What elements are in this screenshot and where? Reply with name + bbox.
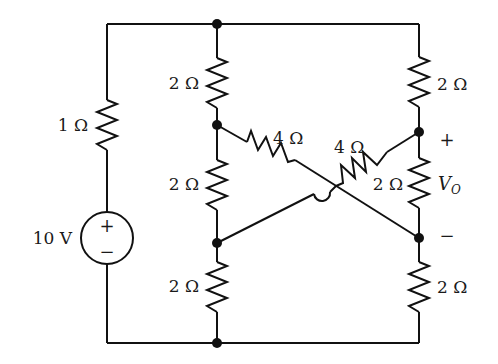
label-r-mid-bottom: 2 Ω — [169, 276, 199, 296]
cross-wire-to-4ohm-right — [330, 186, 336, 192]
node-mid-upper — [212, 120, 222, 130]
resistor-right-bottom — [409, 262, 429, 312]
source-minus-sign: − — [99, 241, 114, 262]
label-vo-plus: + — [439, 129, 454, 150]
node-top-mid — [212, 19, 222, 29]
label-r-right-top: 2 Ω — [437, 74, 467, 94]
label-r-mid-top: 2 Ω — [169, 73, 199, 93]
label-r-mid-middle: 2 Ω — [169, 174, 199, 194]
label-r-cross-right: 4 Ω — [334, 137, 364, 157]
node-right-upper — [414, 127, 424, 137]
cross-wire-lower-left — [217, 194, 314, 243]
resistor-right-middle — [409, 158, 429, 208]
label-r-right-middle: 2 Ω — [373, 174, 403, 194]
voltage-source: + − — [81, 212, 133, 264]
label-r-cross-left: 4 Ω — [273, 128, 303, 148]
label-r-left: 1 Ω — [58, 115, 88, 135]
node-right-lower — [414, 233, 424, 243]
cross-wire-lower-right — [295, 160, 419, 238]
node-bottom-mid — [212, 338, 222, 348]
label-vo: VO — [438, 173, 461, 197]
node-mid-lower — [212, 238, 222, 248]
circuit-diagram: + − 1 Ω 10 V 2 Ω 2 Ω 2 Ω 2 Ω 2 Ω 2 Ω 4 Ω… — [0, 0, 498, 364]
cross-wire-hop — [314, 192, 330, 201]
cross-wire-upper-right — [387, 132, 419, 152]
resistor-mid-top — [207, 58, 227, 108]
label-vo-subscript: O — [451, 183, 461, 197]
cross-wire-upper-left — [217, 125, 247, 142]
resistor-right-top — [409, 57, 429, 107]
resistor-mid-bottom — [207, 262, 227, 312]
resistor-mid-middle — [207, 160, 227, 210]
label-r-right-bottom: 2 Ω — [437, 277, 467, 297]
label-vo-minus: − — [439, 225, 454, 246]
resistor-left-1ohm — [97, 100, 117, 150]
label-source: 10 V — [33, 228, 73, 248]
source-plus-sign: + — [99, 215, 114, 236]
